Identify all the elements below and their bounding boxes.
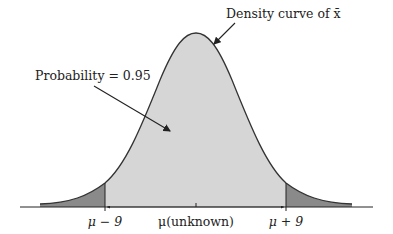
probability-annotation: Probability = 0.95 [35, 68, 151, 83]
label-center: μ(unknown) [158, 214, 234, 229]
density-curve-pointer [214, 23, 235, 44]
center-region-fill [40, 33, 352, 207]
label-upper-bound: μ + 9 [269, 214, 304, 229]
sampling-distribution-diagram: μ − 9 μ(unknown) μ + 9 Density curve of … [0, 0, 393, 234]
label-lower-bound: μ − 9 [88, 214, 123, 229]
density-curve-annotation: Density curve of x̄ [226, 6, 341, 21]
